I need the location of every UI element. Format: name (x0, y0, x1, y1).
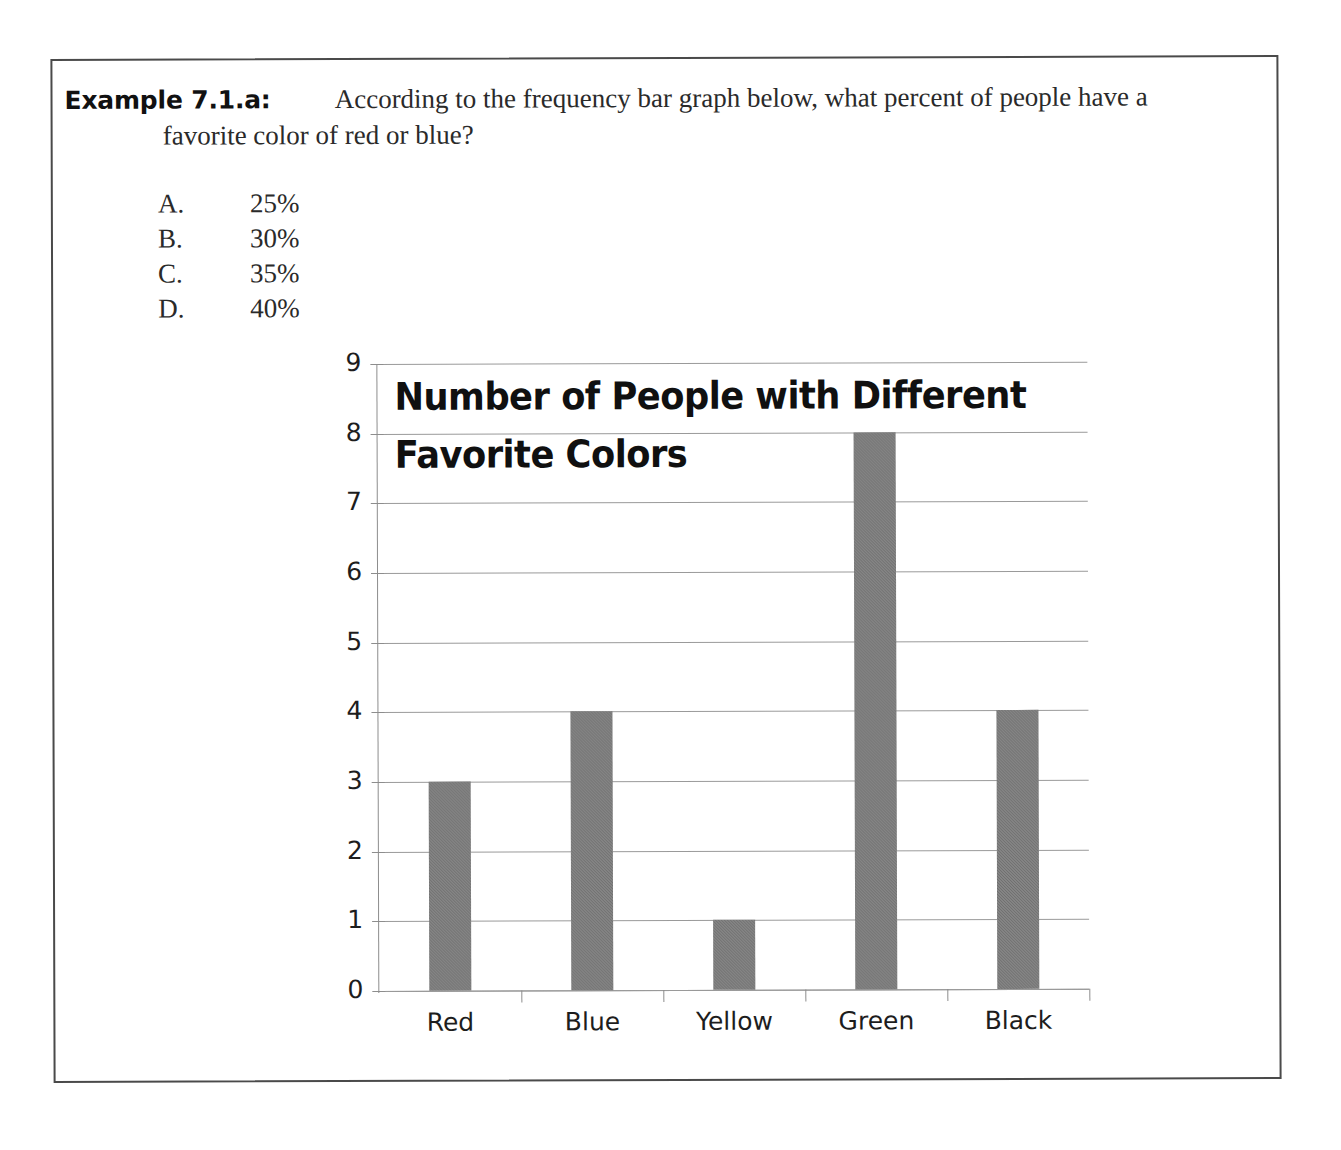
choice-value-c: 35% (250, 258, 300, 289)
plot-area (377, 362, 1089, 991)
y-axis-label-wrap-2: 2 (191, 852, 363, 853)
choice-value-b: 30% (250, 223, 300, 254)
y-axis-label-wrap-8: 8 (190, 434, 362, 435)
bar-blue (570, 712, 613, 991)
choice-value-a: 25% (250, 188, 300, 219)
y-axis-label-1: 1 (203, 905, 363, 935)
y-axis-label-wrap-7: 7 (190, 503, 362, 504)
y-axis-tick-7 (371, 503, 384, 504)
y-axis-label-wrap-1: 1 (191, 921, 363, 922)
bar-green (854, 432, 898, 989)
y-axis-tick-8 (371, 434, 384, 435)
answer-choices-list: A. 25% B. 30% C. 35% D. 40% (158, 188, 300, 328)
bar-black (996, 710, 1039, 989)
question-line-1: Example 7.1.a:According to the frequency… (64, 79, 1254, 117)
y-axis-label-wrap-4: 4 (190, 712, 362, 713)
question-block: Example 7.1.a:According to the frequency… (64, 79, 1254, 152)
gridline-4 (378, 710, 1088, 713)
y-axis-tick-9 (370, 364, 383, 365)
y-axis-tick-4 (371, 712, 384, 713)
y-axis-tick-6 (371, 573, 384, 574)
gridline-5 (378, 640, 1088, 643)
choice-value-d: 40% (250, 293, 300, 324)
y-axis-label-2: 2 (203, 836, 363, 866)
y-axis-label-wrap-3: 3 (191, 782, 363, 783)
answer-choice-d[interactable]: D. 40% (158, 293, 300, 328)
choice-letter-a: A. (158, 188, 250, 219)
y-axis-label-3: 3 (203, 766, 363, 796)
y-axis-tick-0 (372, 991, 385, 992)
example-label: Example 7.1.a: (64, 85, 270, 115)
frequency-bar-chart: Number of People with Different Favorite… (189, 351, 1091, 1044)
y-axis-tick-1 (372, 921, 385, 922)
gridline-3 (379, 780, 1089, 783)
x-axis-label-black: Black (985, 1006, 1053, 1035)
gridline-6 (378, 571, 1088, 574)
y-axis-label-0: 0 (203, 975, 363, 1005)
answer-choice-c[interactable]: C. 35% (158, 258, 300, 293)
y-axis-label-6: 6 (202, 557, 362, 587)
x-axis-tick-5 (1089, 989, 1090, 1001)
y-axis-tick-2 (372, 852, 385, 853)
y-axis-label-wrap-0: 0 (191, 991, 363, 992)
gridline-9 (377, 362, 1087, 365)
y-axis-tick-5 (371, 643, 384, 644)
choice-letter-d: D. (158, 293, 250, 324)
x-axis-tick-2 (663, 990, 664, 1002)
x-axis-label-green: Green (839, 1006, 915, 1035)
answer-choice-b[interactable]: B. 30% (158, 223, 300, 258)
bar-red (429, 782, 472, 991)
y-axis-label-4: 4 (202, 696, 362, 726)
gridline-8 (378, 431, 1088, 434)
y-axis-label-wrap-9: 9 (189, 364, 361, 365)
question-text-part-1: According to the frequency bar graph bel… (335, 81, 1148, 114)
x-axis-label-red: Red (427, 1008, 475, 1037)
y-axis-label-9: 9 (201, 348, 361, 378)
choice-letter-c: C. (158, 258, 250, 289)
y-axis-label-8: 8 (202, 418, 362, 448)
x-axis-tick-1 (521, 990, 522, 1002)
choice-letter-b: B. (158, 223, 250, 254)
y-axis-label-wrap-5: 5 (190, 643, 362, 644)
gridline-2 (379, 849, 1089, 852)
answer-choice-a[interactable]: A. 25% (158, 188, 300, 223)
bar-yellow (713, 920, 755, 990)
question-text-part-2: favorite color of red or blue? (163, 117, 1255, 151)
x-axis-label-yellow: Yellow (696, 1007, 773, 1036)
x-axis-label-blue: Blue (565, 1007, 620, 1036)
problem-box: Example 7.1.a:According to the frequency… (50, 55, 1281, 1083)
y-axis-label-wrap-6: 6 (190, 573, 362, 574)
y-axis-label-5: 5 (202, 627, 362, 657)
y-axis-label-7: 7 (202, 487, 362, 517)
gridline-7 (378, 501, 1088, 504)
x-axis-tick-4 (947, 989, 948, 1001)
x-axis-tick-3 (805, 990, 806, 1002)
y-axis-tick-3 (372, 782, 385, 783)
